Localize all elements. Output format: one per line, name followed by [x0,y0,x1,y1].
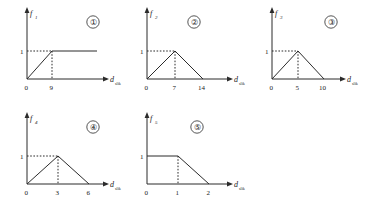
x-tick-label-3-2: 10 [319,84,327,92]
x-tick-label-3-0: 0 [270,84,274,92]
x-tick-label-4-0: 0 [25,189,29,197]
x-tick-label-1-1: 9 [50,84,54,92]
chart-panel-5: f 5 d slik 1 0 1 2 ⑤ [125,105,255,213]
y-tick-label-1-0: 1 [20,48,24,56]
index-label-3: ③ [328,18,335,27]
x-axis-label-sub-1: slik [115,81,121,86]
y-axis-label-2: f [150,9,154,18]
x-axis-label-sub-5: slik [239,186,245,191]
y-axis-label-sub-3: 3 [280,15,283,20]
index-label-2: ② [191,18,198,27]
x-axis-arrow-2 [227,77,233,82]
y-tick-label-5-0: 1 [140,153,144,161]
x-tick-label-4-2: 6 [87,189,91,197]
y-axis-label-sub-2: 2 [155,15,158,20]
x-tick-label-4-1: 3 [56,189,60,197]
y-axis-label-1: f [30,9,34,18]
y-axis-label-sub-4: 4 [35,120,38,125]
y-tick-label-2-0: 1 [140,48,144,56]
figure-canvas: f 1 d slik 1 0 9 ① f 2 d slik 1 0 [0,0,369,213]
chart-panel-4: f 4 d slik 1 0 3 6 ④ [0,105,130,213]
index-label-5: ⑤ [194,123,201,132]
x-tick-label-5-0: 0 [145,189,149,197]
chart-panel-1: f 1 d slik 1 0 9 ① [0,0,130,105]
x-axis-label-sub-3: slik [352,81,358,86]
x-tick-label-2-2: 14 [198,84,206,92]
y-axis-arrow-3 [270,7,275,13]
x-tick-label-2-0: 0 [145,84,149,92]
y-axis-arrow-5 [145,112,150,118]
y-axis-label-5: f [150,114,154,123]
x-axis-arrow-1 [103,77,109,82]
y-axis-label-sub-1: 1 [35,15,38,20]
x-tick-label-1-0: 0 [25,84,29,92]
x-tick-label-5-1: 1 [176,189,180,197]
y-tick-label-4-0: 1 [20,153,24,161]
y-axis-arrow-4 [25,112,30,118]
x-tick-label-3-1: 5 [296,84,300,92]
y-axis-label-4: f [30,114,34,123]
chart-panel-2: f 2 d slik 1 0 7 14 ② [130,0,258,105]
index-label-4: ④ [90,123,97,132]
x-tick-label-2-1: 7 [173,84,177,92]
chart-panel-3: f 3 d slik 1 0 5 10 ③ [258,0,369,105]
x-axis-label-sub-4: slik [115,186,121,191]
index-label-1: ① [90,18,97,27]
series-line-1 [27,51,97,79]
x-axis-label-sub-2: slik [239,81,245,86]
x-axis-arrow-4 [103,182,109,187]
y-tick-label-3-0: 1 [265,48,269,56]
x-tick-label-5-2: 2 [207,189,211,197]
y-axis-label-3: f [275,9,279,18]
x-axis-arrow-3 [340,77,346,82]
y-axis-arrow-2 [145,7,150,13]
y-axis-arrow-1 [25,7,30,13]
y-axis-label-sub-5: 5 [155,120,158,125]
x-axis-arrow-5 [227,182,233,187]
